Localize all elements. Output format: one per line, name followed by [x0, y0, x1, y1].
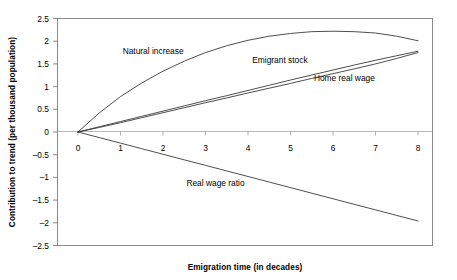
y-tick-label: –1: [40, 172, 50, 182]
x-tick-label: 6: [331, 143, 336, 153]
x-tick-label: 5: [288, 143, 293, 153]
y-tick-label: 0: [44, 127, 49, 137]
y-tick-label: 2: [44, 36, 49, 46]
x-tick-label: 0: [76, 143, 81, 153]
y-axis-ticks: [53, 19, 58, 246]
x-tick-label: 4: [246, 143, 251, 153]
line-chart: 2.521.510.50–0.5–1–1.5–2–2.5 012345678 N…: [0, 0, 457, 280]
series-label-real-wage-ratio: Real wage ratio: [186, 178, 245, 188]
x-tick-label: 7: [373, 143, 378, 153]
y-tick-label: –0.5: [33, 150, 50, 160]
y-tick-label: 0.5: [37, 104, 49, 114]
y-tick-label: –2: [40, 218, 50, 228]
y-tick-label: 1: [44, 82, 49, 92]
series-label-emigrant-stock: Emigrant stock: [252, 55, 308, 65]
y-axis-title: Contribution to trend (per thousand popu…: [8, 37, 17, 227]
chart-figure: 2.521.510.50–0.5–1–1.5–2–2.5 012345678 N…: [0, 0, 457, 280]
y-tick-label: –1.5: [33, 195, 50, 205]
x-tick-label: 1: [118, 143, 123, 153]
series-label-home-real-wage: Home real wage: [314, 73, 375, 83]
series-label-natural-increase: Natural increase: [123, 46, 184, 56]
x-tick-label: 2: [161, 143, 166, 153]
y-tick-label: –2.5: [33, 241, 50, 251]
x-tick-label: 3: [203, 143, 208, 153]
x-axis-title: Emigration time (in decades): [188, 263, 303, 272]
x-tick-label: 8: [416, 143, 421, 153]
y-tick-label: 1.5: [37, 59, 49, 69]
y-tick-label: 2.5: [37, 14, 49, 24]
y-axis-tick-labels: 2.521.510.50–0.5–1–1.5–2–2.5: [33, 14, 50, 251]
